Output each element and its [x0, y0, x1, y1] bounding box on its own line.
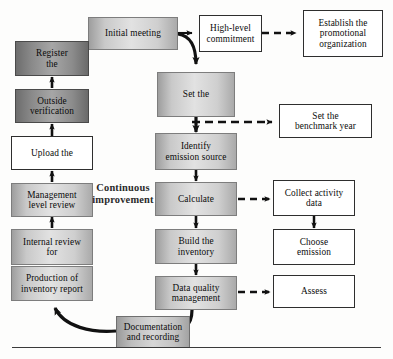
node-documentation-and-recording[interactable]: Documentation and recording [116, 316, 190, 348]
node-establish-promotional-organization[interactable]: Establish the promotional organization [303, 10, 383, 57]
node-set-the[interactable]: Set the [157, 72, 235, 117]
node-production-of-inventory-report-label: Production of inventory report [21, 273, 83, 293]
node-identify-emission-source[interactable]: Identify emission source [155, 133, 237, 170]
node-documentation-and-recording-label: Documentation and recording [124, 322, 183, 342]
node-upload-the-label: Upload the [31, 148, 73, 158]
node-build-the-inventory-label: Build the inventory [178, 236, 215, 256]
node-high-level-commitment-label: High-level commitment [207, 23, 255, 43]
node-build-the-inventory[interactable]: Build the inventory [155, 229, 237, 264]
bottom-divider [12, 347, 381, 348]
node-production-of-inventory-report[interactable]: Production of inventory report [11, 266, 93, 301]
node-collect-activity-data[interactable]: Collect activity data [273, 180, 355, 216]
node-choose-emission-label: Choose emission [297, 237, 331, 257]
node-high-level-commitment[interactable]: High-level commitment [199, 15, 262, 52]
node-assess[interactable]: Assess [273, 275, 355, 308]
continuous-improvement-label: Continuous improvement [89, 182, 157, 205]
node-calculate[interactable]: Calculate [155, 182, 237, 216]
node-outside-verification-label: Outside verification [30, 96, 74, 116]
node-collect-activity-data-label: Collect activity data [285, 188, 344, 208]
node-initial-meeting-label: Initial meeting [105, 28, 161, 38]
node-register-the[interactable]: Register the [15, 41, 89, 76]
node-internal-review-for[interactable]: Internal review for [11, 229, 93, 265]
node-establish-promotional-organization-label: Establish the promotional organization [318, 18, 367, 48]
node-internal-review-for-label: Internal review for [23, 237, 81, 257]
node-outside-verification[interactable]: Outside verification [15, 89, 89, 123]
node-set-benchmark-year[interactable]: Set the benchmark year [279, 104, 372, 138]
node-management-level-review[interactable]: Management level review [11, 183, 93, 217]
node-set-benchmark-year-label: Set the benchmark year [295, 111, 356, 131]
node-initial-meeting[interactable]: Initial meeting [88, 17, 178, 50]
node-data-quality-management[interactable]: Data quality management [155, 276, 237, 310]
edge-documentation-and-recording-to-production-of-inventory-report [55, 308, 116, 331]
node-identify-emission-source-label: Identify emission source [165, 141, 226, 161]
node-register-the-label: Register the [36, 48, 68, 68]
flowchart-diagram: Initial meeting High-level commitment Es… [0, 0, 393, 359]
node-upload-the[interactable]: Upload the [11, 136, 93, 170]
node-management-level-review-label: Management level review [27, 190, 77, 210]
node-choose-emission[interactable]: Choose emission [273, 229, 355, 265]
node-assess-label: Assess [301, 286, 327, 296]
node-set-the-label: Set the [183, 89, 209, 99]
node-calculate-label: Calculate [178, 194, 214, 204]
edge-initial-meeting-to-set-the [178, 34, 196, 64]
node-data-quality-management-label: Data quality management [172, 283, 221, 303]
